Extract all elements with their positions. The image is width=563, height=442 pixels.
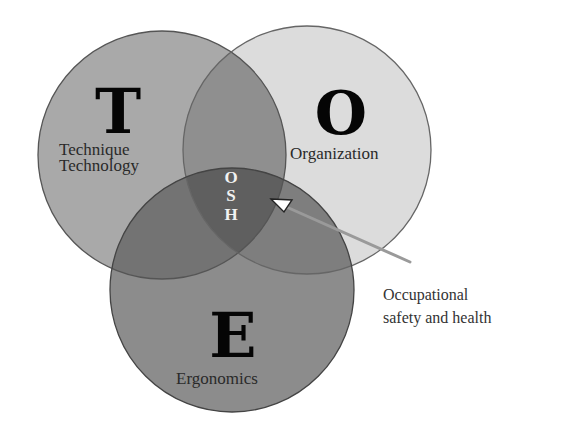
venn-diagram: T O E Technique Technology Organization …	[0, 0, 563, 442]
annotation-line-2: safety and health	[383, 306, 491, 329]
center-letter-h: H	[224, 205, 237, 224]
annotation-osh: Occupational safety and health	[383, 283, 491, 329]
label-technology: Technology	[59, 156, 140, 175]
label-organization: Organization	[290, 144, 379, 163]
label-ergonomics: Ergonomics	[176, 369, 258, 388]
annotation-line-1: Occupational	[383, 283, 491, 306]
center-letter-o: O	[224, 168, 237, 187]
letter-t: T	[95, 75, 141, 148]
center-letter-s: S	[226, 186, 235, 205]
letter-e: E	[209, 299, 256, 372]
letter-o: O	[315, 78, 367, 148]
